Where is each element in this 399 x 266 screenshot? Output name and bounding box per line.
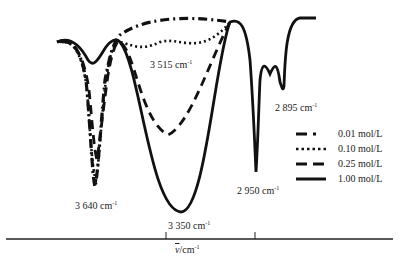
- superscript: -1: [112, 200, 117, 206]
- peak-label-3515: 3 515 cm-1: [150, 59, 192, 70]
- peak-label-3640: 3 640 cm-1: [75, 200, 117, 211]
- legend: 0.01 mol/L 0.10 mol/L 0.25 mol/L 1.00 mo…: [296, 126, 382, 186]
- legend-label: 0.10 mol/L: [338, 143, 382, 154]
- legend-label: 0.01 mol/L: [338, 128, 382, 139]
- solid-line-icon: [296, 176, 326, 182]
- peak-label-2895-text: 2 895 cm: [275, 102, 312, 113]
- x-axis-label: ν/cm-1: [175, 244, 199, 255]
- legend-label: 0.25 mol/L: [338, 158, 382, 169]
- superscript: -1: [187, 59, 192, 65]
- peak-label-3515-text: 3 515 cm: [150, 59, 187, 70]
- legend-item-0.10: 0.10 mol/L: [296, 141, 382, 156]
- legend-item-1.00: 1.00 mol/L: [296, 171, 382, 186]
- superscript: -1: [274, 185, 279, 191]
- superscript: -1: [205, 220, 210, 226]
- peak-label-3350: 3 350 cm-1: [168, 220, 210, 231]
- legend-item-0.25: 0.25 mol/L: [296, 156, 382, 171]
- dotted-line-icon: [296, 146, 326, 152]
- legend-item-0.01: 0.01 mol/L: [296, 126, 382, 141]
- peak-label-2895: 2 895 cm-1: [275, 102, 317, 113]
- superscript: -1: [312, 102, 317, 108]
- peak-label-2950: 2 950 cm-1: [237, 185, 279, 196]
- dash-dot-line-icon: [296, 131, 326, 137]
- peak-label-3640-text: 3 640 cm: [75, 200, 112, 211]
- legend-label: 1.00 mol/L: [338, 173, 382, 184]
- superscript: -1: [194, 244, 199, 250]
- dashed-line-icon: [296, 161, 326, 167]
- peak-label-3350-text: 3 350 cm: [168, 220, 205, 231]
- x-axis-unit: /cm: [179, 244, 194, 255]
- peak-label-2950-text: 2 950 cm: [237, 185, 274, 196]
